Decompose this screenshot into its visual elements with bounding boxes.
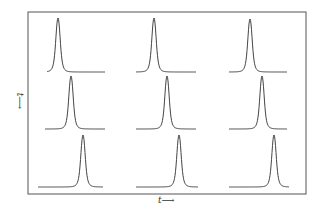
- pulse-curve-r3-c3: [229, 135, 289, 187]
- x-axis-label: t⟶: [158, 195, 175, 205]
- pulse-curve-r2-c2: [136, 76, 196, 129]
- pulse-grid-figure: [0, 0, 324, 213]
- pulse-curve-r2-c3: [229, 76, 287, 129]
- pulse-curve-r1-c1: [47, 18, 105, 72]
- pulse-curves: [38, 18, 289, 187]
- pulse-curve-r2-c1: [45, 76, 105, 129]
- pulse-curve-r1-c2: [136, 18, 196, 72]
- pulse-curve-r3-c1: [38, 135, 103, 187]
- pulse-curve-r1-c3: [229, 19, 287, 72]
- y-axis-label: t⟶: [15, 93, 25, 110]
- pulse-curve-r3-c2: [136, 135, 198, 187]
